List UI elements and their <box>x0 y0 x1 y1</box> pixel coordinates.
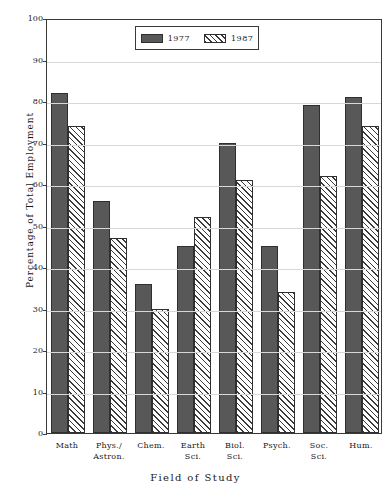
bar <box>278 292 295 433</box>
bar <box>93 201 110 433</box>
x-axis-tick-label: Psych. <box>256 440 298 451</box>
bar-group <box>93 20 127 433</box>
x-axis-tick-label: Soc. Sci. <box>298 440 340 462</box>
legend-label-1987: 1987 <box>231 34 253 43</box>
bar-chart: 0102030405060708090100 Percentage of Tot… <box>0 0 391 492</box>
gridline <box>47 269 381 270</box>
y-axis-tick-label: 70 <box>3 140 43 148</box>
bar-group <box>177 20 211 433</box>
bar-group <box>261 20 295 433</box>
gridline <box>47 145 381 146</box>
bar <box>177 246 194 433</box>
bar <box>68 126 85 433</box>
x-axis-tick-label: Hum. <box>340 440 382 451</box>
y-axis-tick-label: 90 <box>3 57 43 65</box>
y-axis-tick-label: 0 <box>3 430 43 438</box>
plot-area <box>46 19 382 434</box>
x-axis-tick-label: Chem. <box>130 440 172 451</box>
bars-layer <box>47 20 381 433</box>
y-axis-tick-label: 30 <box>3 306 43 314</box>
bar <box>261 246 278 433</box>
x-axis-tick-label: Biol. Sci. <box>214 440 256 462</box>
bar <box>236 180 253 433</box>
bar-group <box>51 20 85 433</box>
bar <box>362 126 379 433</box>
x-axis-tick-labels: MathPhys./ Astron.Chem.Earth Sci.Biol. S… <box>46 440 382 476</box>
gridline <box>47 62 381 63</box>
clipped-chart-title <box>0 0 391 1</box>
x-axis-tick-label: Earth Sci. <box>172 440 214 462</box>
y-axis: 0102030405060708090100 <box>0 0 43 492</box>
x-axis-tick-label: Math <box>46 440 88 451</box>
y-axis-tick-label: 80 <box>3 98 43 106</box>
gridline <box>47 186 381 187</box>
bar <box>110 238 127 433</box>
bar <box>194 217 211 433</box>
y-axis-tick-label: 40 <box>3 264 43 272</box>
gridline <box>47 352 381 353</box>
bar-group <box>345 20 379 433</box>
y-axis-tick-label: 20 <box>3 347 43 355</box>
y-axis-tickmark <box>43 434 47 435</box>
bar <box>135 284 152 433</box>
x-axis-title: Field of Study <box>0 472 391 483</box>
legend-label-1977: 1977 <box>168 34 190 43</box>
bar-group <box>135 20 169 433</box>
bar <box>345 97 362 433</box>
gridline <box>47 103 381 104</box>
x-axis-tick-label: Phys./ Astron. <box>88 440 130 462</box>
gridline <box>47 228 381 229</box>
gridline <box>47 394 381 395</box>
y-axis-tick-label: 50 <box>3 223 43 231</box>
bar <box>152 309 169 434</box>
legend-swatch-icon-1987 <box>204 34 226 43</box>
bar-group <box>219 20 253 433</box>
bar-group <box>303 20 337 433</box>
y-axis-tick-label: 100 <box>3 15 43 23</box>
y-axis-tick-label: 10 <box>3 389 43 397</box>
legend: 1977 1987 <box>135 26 259 50</box>
legend-entry-1987: 1987 <box>204 34 253 43</box>
gridline <box>47 311 381 312</box>
y-axis-title: Percentage of Total Employment <box>25 90 35 310</box>
legend-entry-1977: 1977 <box>141 34 190 43</box>
legend-swatch-icon-1977 <box>141 34 163 43</box>
y-axis-tick-label: 60 <box>3 181 43 189</box>
